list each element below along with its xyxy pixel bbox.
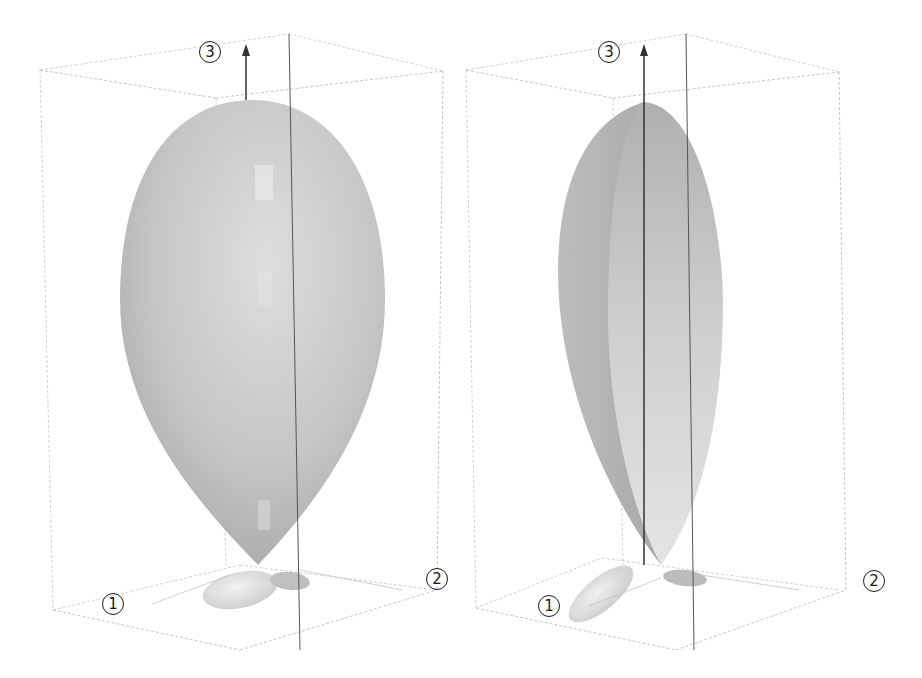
main-lobe-surface [120, 100, 385, 565]
left-3d-plot [0, 0, 461, 678]
axis-3-label: 3 [199, 41, 221, 63]
axis-2-label: 2 [863, 570, 885, 592]
right-3d-plot [461, 0, 922, 678]
axis-2-line [300, 570, 403, 590]
axis-2-line [701, 575, 799, 590]
axis-1-label: 1 [538, 595, 560, 617]
axis-3-arrow [242, 44, 250, 100]
axis-2-label: 2 [426, 568, 448, 590]
lower-lobe-2 [662, 568, 707, 589]
axis-1-label: 1 [102, 593, 124, 615]
left-panel: 3 1 2 [0, 0, 461, 678]
right-panel: 3 1 2 [461, 0, 922, 678]
lower-lobe-1 [560, 556, 642, 632]
axis-3-label: 3 [598, 41, 620, 63]
